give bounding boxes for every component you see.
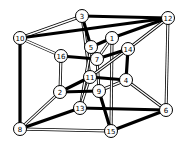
- node-label: 1: [110, 35, 114, 43]
- thick-edge-6-15: [111, 110, 166, 131]
- thick-edge-3-12: [82, 16, 168, 18]
- node-13: 13: [74, 102, 87, 115]
- node-14: 14: [122, 43, 135, 56]
- node-label: 5: [89, 44, 93, 52]
- node-2: 2: [54, 86, 67, 99]
- node-label: 13: [76, 105, 85, 113]
- node-label: 10: [16, 35, 25, 43]
- node-label: 7: [95, 56, 99, 64]
- node-7: 7: [91, 53, 104, 66]
- node-1: 1: [106, 32, 119, 45]
- node-5: 5: [85, 41, 98, 54]
- double-edge-inner-4-6: [126, 80, 166, 110]
- node-12: 12: [162, 12, 175, 25]
- node-15: 15: [105, 125, 118, 138]
- node-6: 6: [160, 104, 173, 117]
- node-label: 2: [58, 89, 62, 97]
- node-label: 14: [124, 46, 133, 54]
- node-11: 11: [84, 71, 97, 84]
- node-label: 12: [164, 15, 173, 23]
- node-10: 10: [14, 32, 27, 45]
- node-label: 11: [86, 74, 95, 82]
- node-label: 16: [57, 53, 66, 61]
- node-3: 3: [76, 10, 89, 23]
- node-8: 8: [14, 123, 27, 136]
- node-label: 9: [97, 88, 101, 96]
- thick-edge-13-6: [80, 108, 166, 110]
- node-9: 9: [93, 85, 106, 98]
- node-label: 4: [124, 77, 129, 85]
- tesseract-graph-diagram: 31210151416711429136815: [0, 0, 184, 153]
- node-4: 4: [120, 74, 133, 87]
- node-label: 8: [18, 126, 22, 134]
- node-16: 16: [55, 50, 68, 63]
- node-label: 3: [80, 13, 84, 21]
- double-edge-inner-1-15: [111, 38, 112, 131]
- node-label: 6: [164, 107, 169, 115]
- node-label: 15: [107, 128, 116, 136]
- thick-edge-13-8: [20, 108, 80, 129]
